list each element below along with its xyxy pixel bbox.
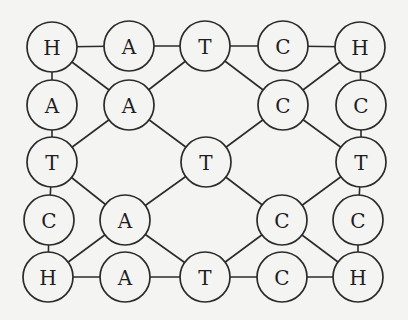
node-label: H	[351, 36, 368, 60]
node-label: H	[349, 266, 366, 290]
node-r3c3: T	[181, 137, 231, 187]
node-label: A	[121, 35, 137, 59]
node-r3c1: T	[27, 137, 77, 187]
node-r5c3: T	[180, 252, 230, 302]
node-label: A	[117, 209, 133, 233]
node-label: C	[353, 94, 368, 118]
node-r5c4: C	[257, 252, 307, 302]
node-label: C	[274, 209, 289, 233]
node-label: T	[199, 151, 213, 175]
node-label: C	[350, 209, 365, 233]
node-label: C	[275, 35, 290, 59]
node-r4c2: A	[100, 195, 150, 245]
node-r5c5: H	[333, 252, 383, 302]
node-r3c5: T	[336, 137, 386, 187]
node-label: T	[198, 35, 212, 59]
node-label: T	[354, 151, 368, 175]
node-label: C	[275, 94, 290, 118]
node-r1c1: H	[27, 22, 77, 72]
node-label: T	[45, 151, 59, 175]
node-r4c1: C	[24, 195, 74, 245]
node-r4c4: C	[257, 195, 307, 245]
node-r1c5: H	[335, 22, 385, 72]
node-r2c2: A	[104, 80, 154, 130]
node-label: A	[117, 266, 133, 290]
node-r1c4: C	[258, 21, 308, 71]
node-r2c4: C	[258, 80, 308, 130]
node-r2c5: C	[336, 80, 386, 130]
letter-graph-diagram: HATCHAACCTTTCACCHATCH	[0, 0, 408, 320]
node-label: A	[44, 94, 60, 118]
node-label: H	[43, 36, 60, 60]
node-r5c2: A	[100, 252, 150, 302]
node-label: A	[121, 94, 137, 118]
node-r4c5: C	[333, 195, 383, 245]
node-label: C	[41, 209, 56, 233]
node-r2c1: A	[27, 80, 77, 130]
node-r1c3: T	[180, 21, 230, 71]
node-label: C	[274, 266, 289, 290]
node-label: T	[198, 266, 212, 290]
node-r1c2: A	[104, 21, 154, 71]
node-label: H	[39, 266, 56, 290]
node-r5c1: H	[23, 252, 73, 302]
